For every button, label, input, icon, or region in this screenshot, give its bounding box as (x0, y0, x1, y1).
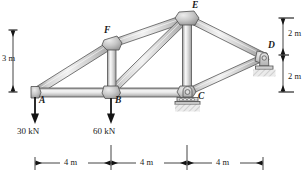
member-ed (187, 15, 265, 59)
node-label-a: A (39, 96, 45, 106)
load-label-a: 30 kN (17, 127, 39, 136)
dimension-label-span-1: 4 m (64, 158, 77, 167)
member-ec (183, 17, 192, 93)
node-label-e: E (192, 1, 198, 11)
dimension-label-span-2: 4 m (140, 158, 153, 167)
member-fb (108, 43, 117, 93)
node-label-f: F (104, 26, 110, 36)
dimension-label-left-vertical: 3 m (2, 54, 15, 63)
member-ab (34, 88, 112, 97)
load-arrow-a (31, 97, 39, 124)
node-label-c: C (198, 92, 204, 102)
load-arrow-b (107, 98, 115, 124)
load-label-b: 60 kN (93, 127, 115, 136)
dimension-label-span-3: 4 m (216, 158, 229, 167)
member-bc (110, 88, 188, 97)
node-label-b: B (115, 96, 121, 106)
node-label-d: D (268, 41, 275, 51)
truss-members (34, 14, 265, 97)
dimension-label-right-upper: 2 m (288, 29, 301, 38)
dimension-label-right-lower: 2 m (288, 72, 301, 81)
member-cd (187, 55, 265, 96)
truss-diagram-figure: A B C D E F 30 kN 60 kN 3 m 2 m 2 m 4 m … (0, 0, 308, 181)
member-af (34, 41, 115, 96)
truss-drawing-canvas (0, 0, 308, 181)
joint-e (175, 11, 199, 25)
